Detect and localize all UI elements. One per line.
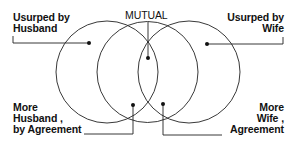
label-line: Wife <box>227 23 284 34</box>
label-usurped-wife: Usurped by Wife <box>227 12 284 34</box>
label-mutual: MUTUAL <box>125 10 168 21</box>
dot-mutual <box>146 56 150 60</box>
label-line: Husband <box>13 23 70 34</box>
label-line: by Agreement <box>13 124 81 135</box>
leader-more-wife <box>163 104 222 135</box>
leader-usurped-husband <box>13 36 89 43</box>
leader-usurped-wife <box>207 37 283 44</box>
dot-usurped-wife <box>205 42 209 46</box>
dot-more-husband <box>131 103 135 107</box>
dot-more-wife <box>161 102 165 106</box>
middle-circle <box>97 22 198 123</box>
label-usurped-husband: Usurped by Husband <box>13 12 70 34</box>
right-circle <box>138 21 240 123</box>
label-line: Agreement <box>230 124 284 135</box>
label-more-husband: More Husband , by Agreement <box>13 102 81 135</box>
label-more-wife: More Wife , Agreement <box>230 102 284 135</box>
dot-usurped-husband <box>87 41 91 45</box>
